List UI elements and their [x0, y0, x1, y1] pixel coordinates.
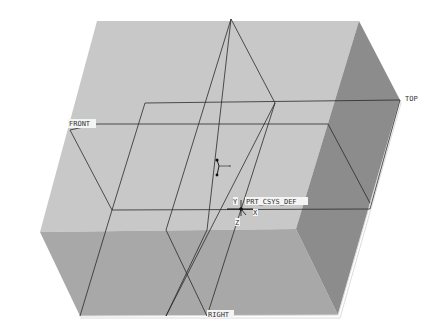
- label-right-text: RIGHT: [208, 311, 230, 319]
- model-viewport[interactable]: FRONT TOP RIGHT Y PRT_CSYS_DEF X Z: [0, 0, 437, 334]
- label-top-text: TOP: [405, 95, 418, 103]
- csys-axis-z: Z: [235, 219, 239, 227]
- label-front[interactable]: FRONT: [68, 119, 96, 128]
- label-right[interactable]: RIGHT: [207, 310, 234, 319]
- csys-label-text: PRT_CSYS_DEF: [246, 198, 297, 206]
- front-face[interactable]: [40, 229, 338, 316]
- label-top[interactable]: TOP: [405, 95, 418, 103]
- label-front-text: FRONT: [69, 120, 91, 128]
